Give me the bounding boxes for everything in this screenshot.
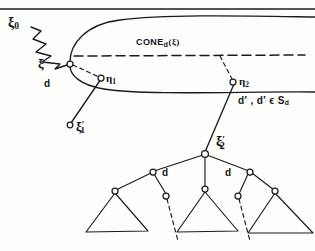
node-leaf-c	[202, 186, 208, 192]
node-leaf-b	[163, 193, 169, 199]
dropper-left-dashed	[167, 199, 178, 241]
edge-axis-eta2-dashed	[220, 56, 232, 79]
edge-rightchild-leafe	[252, 173, 274, 190]
node-tree-right	[247, 169, 253, 175]
edge-xiprime1-eta1	[71, 79, 101, 123]
triangle-middle	[177, 192, 238, 232]
label-d-prime-set: d′ , d′ ϵ Sd	[238, 96, 289, 107]
zigzag-path	[31, 27, 70, 69]
dropper-right-dashed	[239, 199, 250, 241]
node-eta2	[230, 79, 236, 85]
node-leaf-d	[235, 193, 241, 199]
label-d-left: d	[44, 79, 50, 89]
node-xi-prime-2	[202, 151, 209, 158]
node-leaf-a	[112, 188, 118, 194]
edge-xi-eta1-dashed	[73, 65, 99, 77]
label-xi-prime-2: ξ′2	[216, 135, 225, 151]
label-eta-2: η2	[239, 76, 249, 88]
node-xi-prime-1	[67, 122, 73, 128]
label-cone: CONEd(ξ)	[136, 38, 180, 48]
node-xi	[67, 61, 73, 67]
label-d-tree-right: d	[225, 168, 231, 178]
label-eta-1: η1	[106, 73, 116, 85]
triangle-left	[86, 193, 148, 232]
cone-axis-dashed	[74, 55, 305, 56]
node-eta1	[98, 75, 104, 81]
label-d-tree-left: d	[162, 168, 168, 178]
node-tree-left	[150, 169, 156, 175]
label-xi-prime-1: ξ′1	[76, 120, 85, 135]
label-xi-zero: ξ0	[8, 16, 19, 32]
node-leaf-e	[272, 188, 278, 194]
triangle-right	[248, 193, 313, 233]
figure-canvas: .ink { stroke:#1a1b20; fill:none; stroke…	[0, 0, 315, 251]
edge-leftchild-leafa	[116, 173, 151, 190]
edge-rightchild-leafd	[239, 174, 248, 194]
label-xi: ξ	[38, 57, 44, 70]
cone-upper-boundary	[70, 16, 315, 64]
